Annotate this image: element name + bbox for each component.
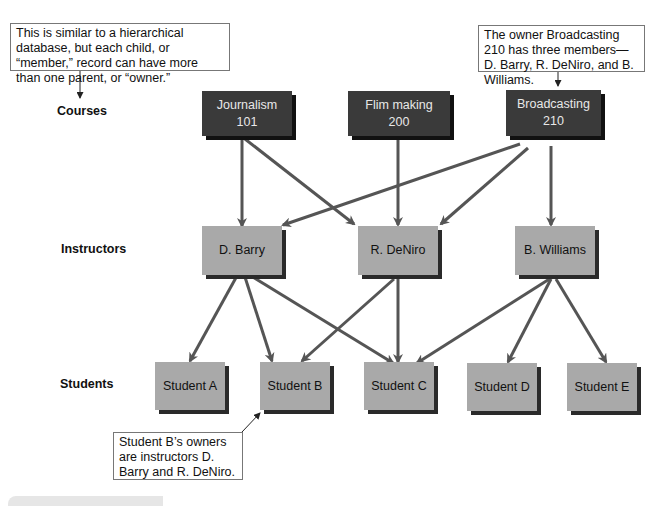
callout-network-definition: This is similar to a hierarchical databa… bbox=[10, 23, 230, 71]
course-name: Journalism bbox=[217, 97, 277, 114]
arrow-barry-studentA bbox=[190, 274, 238, 361]
course-broadcasting-210: Broadcasting210 bbox=[506, 90, 601, 136]
instructor-b-williams: B. Williams bbox=[515, 226, 595, 275]
arrow-williams-studentE bbox=[556, 279, 606, 362]
row-label-courses: Courses bbox=[57, 104, 107, 118]
student-e: Student E bbox=[567, 363, 637, 411]
page-footer-tab bbox=[8, 496, 163, 506]
course-number: 210 bbox=[517, 113, 590, 130]
course-journalism-101: Journalism101 bbox=[202, 91, 292, 136]
arrow-journalism-deniro bbox=[245, 139, 354, 224]
student-d: Student D bbox=[467, 363, 537, 411]
student-c: Student C bbox=[364, 362, 434, 410]
student-b: Student B bbox=[260, 362, 330, 410]
instructor-r-deniro: R. DeNiro bbox=[358, 226, 438, 275]
callout-studentB-owners: Student B’s owners are instructors D. Ba… bbox=[113, 432, 243, 480]
arrow-deniro-studentB bbox=[302, 279, 394, 361]
course-number: 200 bbox=[365, 114, 432, 131]
course-name: Broadcasting bbox=[517, 96, 590, 113]
row-label-instructors: Instructors bbox=[61, 242, 126, 256]
arrow-broadcasting-deniro bbox=[441, 148, 528, 224]
instructor-d-barry: D. Barry bbox=[202, 226, 282, 275]
course-name: Flim making bbox=[365, 97, 432, 114]
callout-broadcasting-owner: The owner Broadcasting 210 has three mem… bbox=[478, 25, 645, 72]
student-a: Student A bbox=[155, 362, 225, 410]
course-flim-making-200: Flim making200 bbox=[348, 91, 450, 136]
row-label-students: Students bbox=[60, 377, 113, 391]
course-number: 101 bbox=[217, 114, 277, 131]
